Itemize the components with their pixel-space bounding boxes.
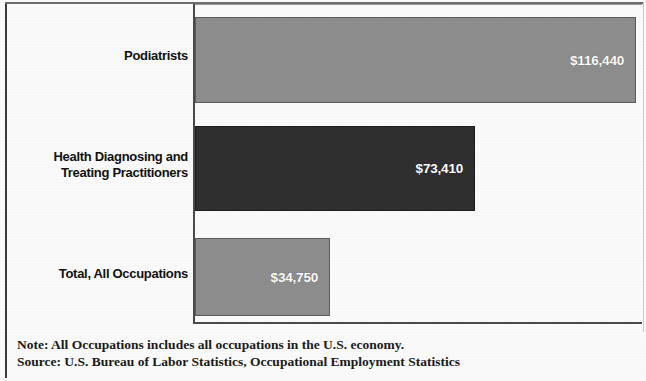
figure-border-left: [5, 2, 7, 378]
category-label-total-all-occupations: Total, All Occupations: [59, 266, 188, 282]
source-line: Source: U.S. Bureau of Labor Statistics,…: [17, 353, 637, 370]
category-label-health-diagnosing-and-treating-practitioners: Health Diagnosing and Treating Practitio…: [53, 149, 188, 181]
bar-total-all-occupations[interactable]: $34,750: [195, 238, 330, 316]
plot-top-rule: [193, 4, 642, 5]
bar-value-health-diagnosing-and-treating-practitioners: $73,410: [416, 161, 474, 176]
note-line: Note: All Occupations includes all occup…: [17, 336, 637, 353]
plot-area: $116,440 $73,410 $34,750: [193, 4, 644, 324]
bar-podiatrists[interactable]: $116,440: [195, 17, 636, 103]
chart-figure: Podiatrists Health Diagnosing and Treati…: [0, 0, 646, 381]
bar-value-total-all-occupations: $34,750: [271, 270, 329, 285]
footnotes: Note: All Occupations includes all occup…: [17, 336, 637, 370]
category-label-podiatrists: Podiatrists: [124, 48, 188, 64]
x-axis-line: [193, 322, 642, 324]
bar-value-podiatrists: $116,440: [570, 53, 635, 68]
bar-health-diagnosing-and-treating-practitioners[interactable]: $73,410: [195, 126, 475, 211]
